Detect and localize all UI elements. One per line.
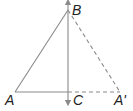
label-a-prime: A': [113, 92, 127, 108]
label-a: A: [4, 92, 14, 108]
segment-ab: [15, 10, 68, 92]
label-c: C: [73, 92, 84, 108]
reflection-diagram: B A C A': [0, 0, 133, 111]
label-b: B: [72, 2, 81, 18]
segment-ba-prime: [68, 10, 120, 92]
